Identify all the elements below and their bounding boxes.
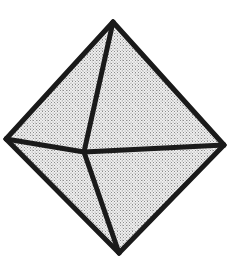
octahedron-body-texture-overlay bbox=[6, 22, 224, 253]
figure-canvas: Octahedron Black-and-white line drawing … bbox=[0, 0, 233, 264]
octahedron-svg bbox=[0, 0, 233, 264]
